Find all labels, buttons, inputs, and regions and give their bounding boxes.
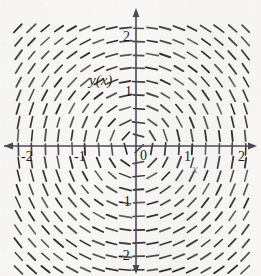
field-dash: [148, 159, 156, 168]
field-dash: [147, 27, 157, 28]
field-dash: [57, 118, 60, 127]
field-dash: [80, 226, 90, 232]
field-dash: [176, 171, 182, 181]
field-dash: [216, 78, 223, 87]
field-dash: [67, 26, 76, 31]
field-dash: [133, 122, 145, 123]
field-dash: [111, 143, 112, 154]
field-dash: [244, 211, 249, 219]
field-dash: [177, 157, 181, 168]
field-dash: [45, 129, 46, 141]
field-dash: [174, 213, 183, 219]
field-dash: [67, 253, 77, 259]
field-dash: [120, 68, 131, 70]
field-dash: [217, 171, 220, 181]
field-dash: [147, 41, 157, 43]
field-dash: [201, 77, 209, 86]
field-dash: [242, 225, 249, 234]
field-dash: [202, 39, 211, 45]
field-dash: [189, 78, 196, 85]
field-dash: [147, 93, 158, 97]
field-dash: [124, 144, 127, 154]
x-axis-label: x: [192, 162, 198, 175]
field-dash: [107, 186, 117, 192]
field-dash: [165, 143, 166, 155]
field-dash: [229, 25, 237, 32]
field-dash: [108, 119, 115, 126]
field-dash: [147, 242, 158, 244]
field-dash: [176, 186, 183, 194]
field-dash: [82, 117, 87, 128]
field-dash: [147, 229, 157, 231]
field-dash: [93, 53, 104, 58]
field-dash: [41, 37, 49, 45]
field-dash: [42, 212, 49, 222]
field-dash: [95, 186, 103, 193]
field-dash: [160, 228, 170, 232]
field-dash: [188, 39, 198, 44]
field-dash: [15, 50, 22, 59]
field-dash: [188, 198, 196, 207]
field-dash: [81, 267, 90, 271]
field-dash: [106, 54, 118, 57]
field-dash: [42, 253, 49, 260]
field-dash: [215, 51, 223, 59]
field-dash: [68, 213, 76, 220]
field-dash: [43, 104, 47, 114]
field-dash: [56, 184, 61, 194]
field-dash: [106, 268, 117, 270]
field-dash: [174, 66, 183, 71]
field-dash: [242, 50, 249, 59]
field-dash: [54, 254, 63, 260]
field-dash: [228, 266, 237, 274]
field-dash: [214, 239, 222, 246]
field-dash: [202, 51, 210, 58]
field-dash: [242, 64, 248, 73]
field-dash: [121, 160, 129, 166]
field-dash: [44, 116, 47, 127]
field-dash: [94, 66, 103, 71]
field-dash: [69, 91, 75, 99]
field-dash: [120, 188, 131, 191]
field-dash: [80, 26, 90, 30]
field-dash: [219, 131, 220, 141]
field-dash: [191, 130, 193, 142]
field-dash: [94, 104, 102, 113]
y-axis-label: y(x): [89, 73, 112, 88]
field-dash: [216, 226, 223, 233]
direction-field-dashes: [14, 24, 250, 274]
field-dash: [160, 66, 171, 70]
field-dash: [17, 170, 20, 180]
field-dash: [161, 213, 171, 218]
field-dash: [201, 253, 210, 259]
field-dash: [16, 63, 22, 73]
field-dash: [67, 51, 76, 58]
field-dash: [229, 239, 236, 247]
field-dash: [81, 199, 89, 207]
field-dash: [28, 253, 35, 260]
x-tick-label-1: 1: [184, 150, 191, 164]
field-dash: [203, 184, 209, 194]
field-dash: [161, 105, 170, 112]
y-tick-label-1: 1: [125, 85, 132, 99]
field-dash: [67, 267, 78, 273]
field-dash: [160, 27, 171, 30]
field-dash: [43, 184, 48, 195]
field-dash: [230, 90, 235, 101]
field-dash: [106, 242, 116, 245]
field-dash: [67, 65, 75, 72]
field-dash: [187, 52, 197, 58]
field-dash: [147, 173, 157, 178]
field-dash: [93, 27, 104, 31]
y-tick-label--2: -2: [118, 249, 130, 263]
field-dash: [188, 254, 197, 259]
field-dash: [205, 130, 206, 140]
field-dash: [16, 197, 21, 208]
field-dash: [18, 130, 19, 141]
field-dash: [147, 81, 157, 84]
field-dash: [81, 53, 90, 58]
field-dash: [69, 184, 75, 194]
field-dash: [16, 211, 22, 221]
field-dash: [15, 38, 22, 46]
field-dash: [173, 241, 184, 246]
